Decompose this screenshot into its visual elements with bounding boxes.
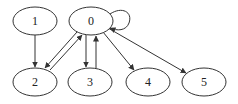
node-2[interactable]: 2 — [13, 68, 57, 96]
node-4-label: 4 — [145, 75, 151, 89]
node-5[interactable]: 5 — [182, 68, 226, 96]
edge-0-to-2 — [45, 32, 77, 68]
node-0[interactable]: 0 — [69, 7, 113, 35]
node-1-label: 1 — [32, 14, 38, 28]
edge-0-to-5 — [108, 28, 186, 73]
node-1[interactable]: 1 — [13, 7, 57, 35]
directed-graph: 0 1 2 3 4 5 — [0, 0, 238, 104]
node-5-label: 5 — [201, 75, 207, 89]
edge-0-to-4 — [103, 32, 134, 70]
node-3[interactable]: 3 — [68, 68, 112, 96]
node-4[interactable]: 4 — [126, 68, 170, 96]
edge-2-to-0 — [50, 35, 82, 70]
node-2-label: 2 — [32, 75, 38, 89]
node-3-label: 3 — [87, 75, 93, 89]
node-0-label: 0 — [88, 14, 94, 28]
